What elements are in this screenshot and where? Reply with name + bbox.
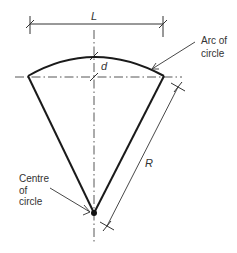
centre-label-line3: circle: [19, 196, 43, 207]
arc-of-circle: [28, 57, 164, 76]
rise-label: d: [101, 60, 108, 72]
arc-label-line1: Arc of: [201, 35, 227, 46]
sector-diagram: L d R Arc of circle Centre of circle: [0, 0, 237, 253]
arc-label-line2: circle: [201, 48, 225, 59]
sector-left-side: [28, 76, 94, 213]
length-label: L: [91, 10, 97, 22]
centre-label-line2: of: [19, 185, 28, 196]
arc-callout: [152, 42, 195, 69]
centre-point: [91, 210, 97, 216]
radius-dimension: [100, 82, 185, 231]
radius-label: R: [145, 157, 153, 169]
sector-right-side: [94, 76, 164, 213]
centre-label-line1: Centre: [19, 173, 49, 184]
